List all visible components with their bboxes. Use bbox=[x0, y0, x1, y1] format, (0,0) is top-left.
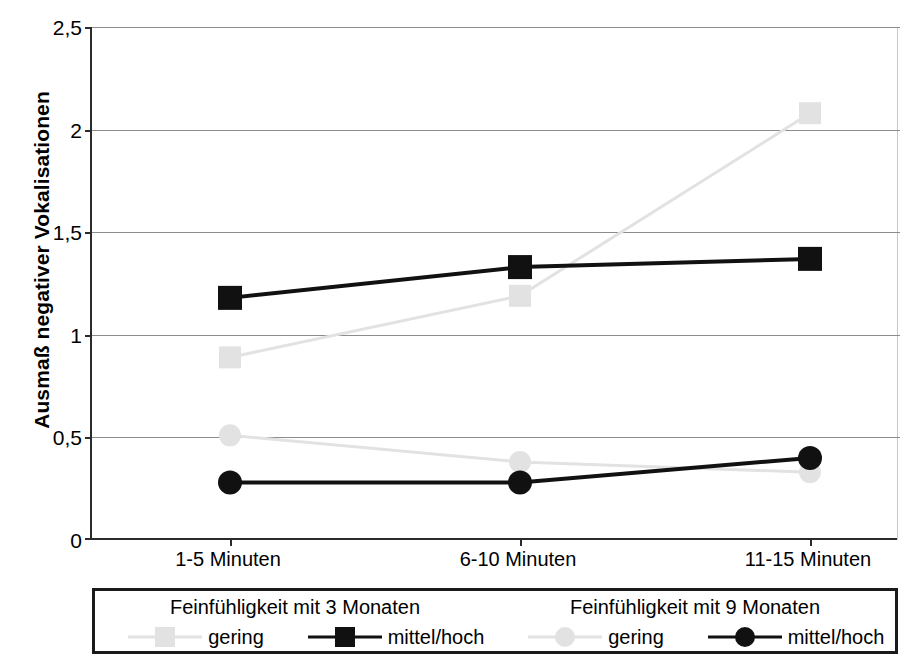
legend-entries: gering mittel/hoch gering bbox=[95, 621, 895, 653]
legend-marker-circle-light-icon bbox=[526, 625, 604, 649]
data-point-marker bbox=[509, 285, 531, 307]
legend-group-titles: Feinfühligkeit mit 3 Monaten Feinfühligk… bbox=[95, 593, 895, 621]
data-point-marker bbox=[509, 451, 531, 473]
data-point-marker bbox=[798, 247, 822, 271]
y-tick-label-1-5: 1,5 bbox=[22, 222, 82, 243]
series-line bbox=[230, 113, 810, 357]
series-plot bbox=[92, 27, 900, 540]
y-tick-mark-0-5 bbox=[85, 437, 92, 439]
y-tick-label-1: 1 bbox=[22, 324, 82, 345]
legend-entry-3m-gering[interactable]: gering bbox=[95, 621, 295, 653]
legend-marker-square-black-icon bbox=[306, 625, 384, 649]
legend-group-title-9-monate: Feinfühligkeit mit 9 Monaten bbox=[495, 593, 895, 621]
data-point-marker bbox=[218, 471, 242, 495]
legend-group-title-3-monate: Feinfühligkeit mit 3 Monaten bbox=[95, 593, 495, 621]
data-point-marker bbox=[508, 471, 532, 495]
legend-label-9m-mittel-hoch: mittel/hoch bbox=[788, 627, 885, 647]
legend-label-9m-gering: gering bbox=[608, 627, 664, 647]
x-tick-label-6-10-minuten: 6-10 Minuten bbox=[398, 548, 638, 571]
data-point-marker bbox=[219, 424, 241, 446]
chart-legend: Feinfühligkeit mit 3 Monaten Feinfühligk… bbox=[92, 588, 898, 654]
data-point-marker bbox=[798, 446, 822, 470]
plot-area bbox=[90, 27, 898, 540]
x-tick-label-1-5-minuten: 1-5 Minuten bbox=[108, 548, 348, 571]
chart-figure: Ausmaß negativer Vokalisationen 0 0,5 1 … bbox=[0, 0, 909, 664]
legend-marker-circle-black-icon bbox=[706, 625, 784, 649]
y-tick-mark-2 bbox=[85, 130, 92, 132]
y-tick-mark-2-5 bbox=[85, 27, 92, 29]
legend-label-3m-mittel-hoch: mittel/hoch bbox=[388, 627, 485, 647]
data-point-marker bbox=[799, 102, 821, 124]
legend-label-3m-gering: gering bbox=[208, 627, 264, 647]
data-point-marker bbox=[508, 255, 532, 279]
legend-marker-square-light-icon bbox=[126, 625, 204, 649]
legend-entry-3m-mittel-hoch[interactable]: mittel/hoch bbox=[295, 621, 495, 653]
x-tick-label-11-15-minuten: 11-15 Minuten bbox=[688, 548, 909, 571]
y-tick-mark-1 bbox=[85, 335, 92, 337]
y-tick-label-2-5: 2,5 bbox=[22, 17, 82, 38]
y-tick-mark-0 bbox=[85, 538, 92, 540]
y-tick-label-2: 2 bbox=[22, 119, 82, 140]
series-0 bbox=[219, 102, 821, 368]
legend-entry-9m-mittel-hoch[interactable]: mittel/hoch bbox=[695, 621, 895, 653]
y-tick-label-0-5: 0,5 bbox=[22, 427, 82, 448]
y-tick-label-0: 0 bbox=[22, 530, 82, 551]
y-axis-tick-labels: 0 0,5 1 1,5 2 2,5 bbox=[18, 0, 82, 664]
data-point-marker bbox=[219, 346, 241, 368]
x-axis-tick-labels: 1-5 Minuten 6-10 Minuten 11-15 Minuten bbox=[90, 548, 898, 578]
y-tick-mark-1-5 bbox=[85, 232, 92, 234]
legend-entry-9m-gering[interactable]: gering bbox=[495, 621, 695, 653]
data-point-marker bbox=[218, 286, 242, 310]
